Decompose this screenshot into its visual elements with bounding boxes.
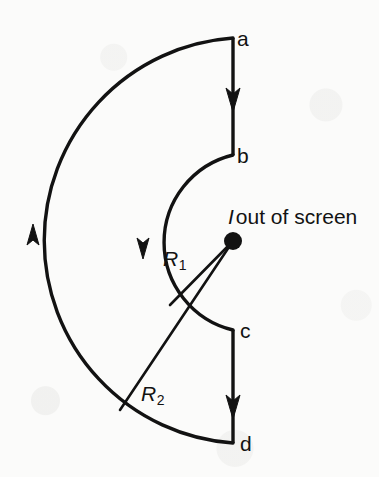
current-description: out of screen (236, 205, 357, 228)
label-point-d: d (240, 433, 252, 454)
label-point-a: a (237, 28, 249, 49)
radius-R1-symbol: R (163, 247, 178, 270)
inner-arc-arrowhead-down (137, 238, 149, 259)
label-point-b: b (237, 145, 249, 166)
diagram-canvas (0, 0, 379, 477)
radius-R2-subscript: 2 (157, 392, 165, 408)
current-symbol: I (228, 205, 234, 228)
outer-arc-arrowhead-up (27, 224, 39, 245)
label-radius-R2: R2 (141, 383, 164, 407)
radius-R2-symbol: R (141, 382, 156, 405)
label-current-out-of-screen: Iout of screen (228, 206, 357, 227)
label-radius-R1: R1 (163, 248, 186, 272)
radius-R1-subscript: 1 (179, 257, 187, 273)
current-source-dot (224, 232, 242, 250)
inner-arc-R1 (164, 155, 233, 330)
physics-diagram-figure: a b c d R1 R2 Iout of screen (0, 0, 379, 477)
label-point-c: c (240, 320, 251, 341)
